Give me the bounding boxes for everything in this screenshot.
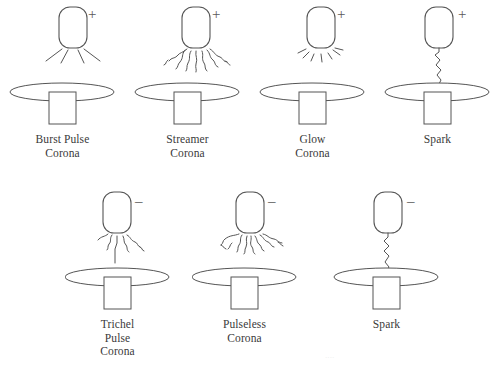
polarity-sign-negative: – [135,194,143,209]
plate-column [174,92,201,124]
caption-streamer: Streamer Corona [125,133,250,160]
plate-column [424,92,451,124]
electrode-capsule [103,192,131,233]
glow-rays [298,48,343,62]
electrode-capsule [182,7,210,48]
plate-column [104,277,131,309]
diagram-cell-spark-positive: + Spark [375,0,500,175]
trichel-pulse-drawing [65,185,190,320]
plate-column [231,277,258,309]
caption-spark-positive: Spark [375,133,500,147]
diagram-cell-streamer: + Streamer Corona [125,0,250,175]
electrode-capsule [59,7,87,48]
burst-pulse-rays [46,49,100,63]
footer-faint-mark: ···· [325,354,334,362]
diagram-cell-pulseless: – Pulseless Corona [192,185,317,360]
caption-spark-negative: Spark [324,318,449,332]
electrode-capsule [425,7,453,48]
polarity-sign-negative: – [407,194,415,209]
plate-column [299,92,326,124]
streamer-drawing [125,0,250,135]
electrode-capsule [236,192,264,233]
caption-trichel-pulse: Trichel Pulse Corona [55,318,180,359]
corona-discharge-figure: + Burst Pulse Corona + Stre [0,0,500,365]
diagram-cell-glow: + Glow Corona [250,0,375,175]
pulseless-drawing [192,185,317,320]
pulseless-filaments [221,234,283,254]
polarity-sign-positive: + [458,7,466,22]
polarity-sign-positive: + [337,7,345,22]
trichel-filaments [98,234,144,263]
polarity-sign-positive: + [212,7,220,22]
plate-column [373,277,400,309]
caption-burst-pulse: Burst Pulse Corona [0,133,125,160]
glow-drawing [250,0,375,135]
burst-pulse-drawing [0,0,125,135]
caption-glow: Glow Corona [250,133,375,160]
electrode-capsule [374,192,402,233]
polarity-sign-negative: – [268,194,276,209]
diagram-cell-trichel-pulse: – Trichel Pulse Corona [65,185,190,360]
diagram-cell-spark-negative: – Spark [322,185,447,360]
electrode-capsule [307,7,335,48]
caption-pulseless: Pulseless Corona [182,318,307,345]
plate-column [49,92,76,124]
diagram-cell-burst-pulse: + Burst Pulse Corona [0,0,125,175]
spark-drawing [375,0,500,135]
spark-drawing [322,185,447,320]
streamer-filaments [164,49,230,72]
polarity-sign-positive: + [88,7,96,22]
